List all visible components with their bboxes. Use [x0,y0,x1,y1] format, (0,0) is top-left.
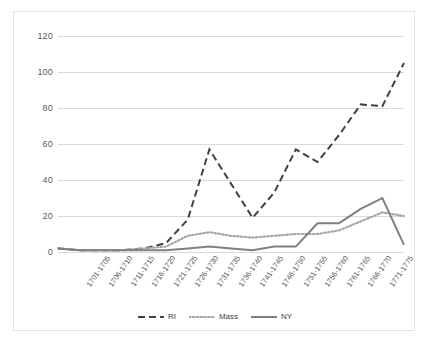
series-line-ny [58,198,404,250]
series-lines [58,36,404,252]
y-tick-0: 0 [48,247,53,257]
solid-line-swatch [251,313,277,321]
dashed-line-swatch [138,313,164,321]
y-tick-60: 60 [43,139,53,149]
legend-label: RI [168,312,176,321]
y-tick-40: 40 [43,175,53,185]
y-tick-100: 100 [37,67,53,77]
series-line-ri [58,63,404,250]
legend-item-ny[interactable]: NY [251,312,292,321]
dotted-line-swatch [189,313,215,321]
series-line-mass [58,212,404,250]
y-tick-120: 120 [37,31,53,41]
x-axis-tick-labels: 1701-17051706-17101711-17151716-17201721… [58,252,404,310]
legend-item-ri[interactable]: RI [138,312,176,321]
legend-label: NY [281,312,292,321]
legend-item-mass[interactable]: Mass [189,312,238,321]
legend-label: Mass [219,312,238,321]
y-tick-20: 20 [43,211,53,221]
chart-legend: RIMassNY [14,312,416,321]
plot-area: 020406080100120 [58,36,404,252]
chart-container: 020406080100120 1701-17051706-17101711-1… [13,11,415,331]
y-tick-80: 80 [43,103,53,113]
